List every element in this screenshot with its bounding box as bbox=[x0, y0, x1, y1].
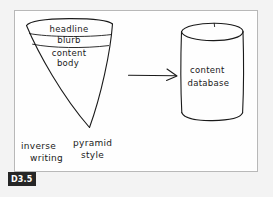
figure-caption: inverse writing pyramid style bbox=[21, 138, 112, 163]
caption-word-style: style bbox=[81, 150, 104, 160]
database-label-content: content bbox=[190, 65, 225, 75]
funnel-label-body: body bbox=[57, 58, 79, 68]
funnel-label-headline: headline bbox=[50, 24, 89, 34]
funnel-label-blurb: blurb bbox=[57, 35, 81, 45]
caption-word-pyramid: pyramid bbox=[73, 138, 112, 148]
figure-page: headline blurb content body content data… bbox=[0, 0, 273, 197]
figure-number-badge: D3.5 bbox=[8, 172, 36, 186]
flow-arrow-icon bbox=[129, 69, 178, 80]
database-label-database: database bbox=[188, 78, 230, 88]
caption-word-writing: writing bbox=[30, 153, 63, 163]
diagram-canvas: headline blurb content body content data… bbox=[0, 0, 273, 197]
funnel-label-content: content bbox=[52, 48, 87, 58]
caption-word-inverse: inverse bbox=[21, 141, 56, 151]
